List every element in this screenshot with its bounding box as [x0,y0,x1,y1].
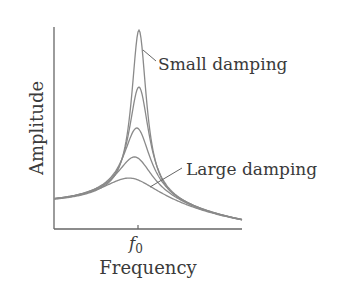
small-damping-label: Small damping [158,54,288,74]
resonance-chart: Small damping Large damping Amplitude Fr… [0,0,337,292]
x-tick-label-f0: f0 [127,233,143,256]
tick-sub: 0 [135,242,143,256]
x-axis-label: Frequency [99,257,197,278]
small-damping-leader [143,50,156,61]
y-axis-label: Amplitude [26,81,47,176]
large-damping-label: Large damping [186,159,317,179]
curve-5 [54,178,242,220]
